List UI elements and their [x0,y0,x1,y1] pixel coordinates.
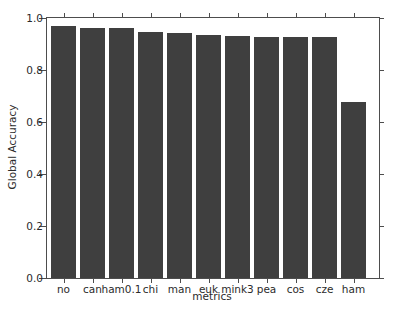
bar-chart-figure: Global Accuracy 0.00.20.40.60.81.0 nocan… [0,0,396,322]
right-tick-mark [379,174,384,175]
bar [196,35,221,278]
bar [167,33,192,278]
right-tick-mark [379,18,384,19]
right-tick-mark [379,226,384,227]
y-axis-title-text: Global Accuracy [6,105,18,190]
bar-series [47,18,379,278]
bar [225,36,250,278]
bar [51,26,76,278]
bar [109,28,134,278]
right-tick-mark [379,122,384,123]
y-tick-label: 0.6 [26,114,43,130]
x-axis-title: metrics [46,290,378,302]
y-tick-label: 0.2 [26,218,43,234]
bar [80,28,105,278]
right-tick-mark [379,70,384,71]
y-axis-title: Global Accuracy [3,17,21,277]
plot-area: 0.00.20.40.60.81.0 nocanham0.1chimaneukm… [46,17,380,279]
right-tick-mark [379,278,384,279]
bar [283,37,308,278]
y-tick-label: 0.8 [26,62,43,78]
y-tick-label: 0.0 [26,270,43,286]
y-tick-label: 1.0 [26,10,43,26]
bar [138,32,163,278]
bar [312,37,337,278]
y-tick-label: 0.4 [26,166,43,182]
x-axis-title-text: metrics [192,290,231,302]
bar [254,37,279,278]
bar [341,102,366,278]
